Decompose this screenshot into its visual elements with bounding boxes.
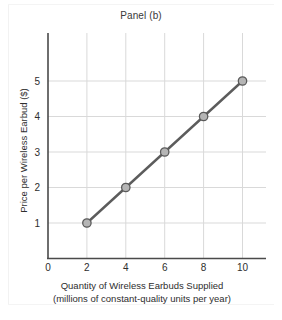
x-tick-label-6: 6: [162, 262, 168, 273]
y-tick-label-2: 2: [34, 182, 40, 193]
x-tick-label-10: 10: [237, 262, 249, 273]
x-axis-label-line-1: Quantity of Wireless Earbuds Supplied: [20, 279, 264, 292]
vertical-gridlines: [87, 33, 243, 259]
x-tick-label-0: 0: [45, 262, 51, 273]
y-tick-label-3: 3: [34, 147, 40, 158]
data-point-4-2: [122, 183, 130, 191]
x-tick-label-8: 8: [201, 262, 207, 273]
chart-figure: Panel (b) 0246810 12345 Price per Wirele…: [0, 0, 282, 320]
y-tick-label-5: 5: [34, 76, 40, 87]
x-axis-label: Quantity of Wireless Earbuds Supplied (m…: [20, 279, 264, 305]
plot-area: 0246810 12345: [0, 0, 282, 320]
horizontal-gridlines: [48, 81, 266, 223]
x-tick-labels: 0246810: [45, 262, 248, 273]
y-axis-label: Price per Wireless Earbud ($): [18, 66, 29, 236]
data-point-2-1: [83, 219, 91, 227]
x-axis-label-line-2: (millions of constant-quality units per …: [20, 292, 264, 305]
data-point-10-5: [238, 77, 246, 85]
x-tick-label-2: 2: [84, 262, 90, 273]
y-tick-label-1: 1: [34, 218, 40, 229]
y-tick-labels: 12345: [34, 76, 40, 229]
x-tick-label-4: 4: [123, 262, 129, 273]
data-point-8-4: [199, 112, 207, 120]
data-point-6-3: [161, 148, 169, 156]
y-tick-label-4: 4: [34, 111, 40, 122]
